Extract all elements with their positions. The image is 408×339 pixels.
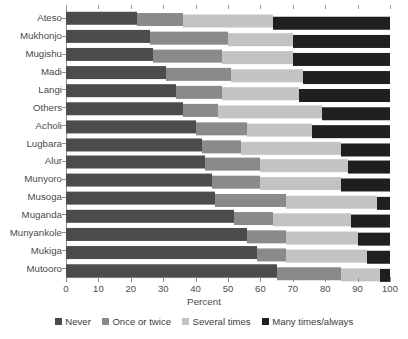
bar-segment-never (66, 246, 257, 259)
bar-segment-several-times (241, 141, 341, 154)
x-axis-tick (228, 278, 229, 282)
legend-label: Several times (193, 316, 251, 327)
x-axis-tick-label: 60 (245, 283, 275, 294)
clipped-chart-title (100, 0, 320, 1)
y-axis-label-mutooro: Mutooro (26, 263, 62, 274)
bar-row (66, 119, 390, 132)
legend-swatch-icon (102, 318, 109, 325)
y-axis-label-lugbara: Lugbara (26, 138, 62, 149)
bar-segment-never (66, 30, 150, 43)
bar-segment-once-or-twice (153, 50, 221, 63)
y-axis-label-muganda: Muganda (22, 209, 62, 220)
legend-item[interactable]: Once or twice (102, 316, 171, 327)
bar-segment-several-times (247, 123, 312, 136)
x-axis-tick-top (325, 5, 326, 9)
x-axis-tick-top (228, 5, 229, 9)
bar-segment-several-times (273, 213, 351, 226)
legend-label: Many times/always (272, 316, 353, 327)
bar-row (66, 262, 390, 275)
chart-legend: NeverOnce or twiceSeveral timesMany time… (0, 316, 408, 327)
bar-segment-several-times (231, 69, 302, 82)
bar-segment-several-times (286, 196, 377, 209)
bar-segment-several-times (222, 87, 300, 100)
bar-segment-once-or-twice (166, 68, 231, 81)
bar-row (66, 226, 390, 239)
bar-segment-once-or-twice (202, 140, 241, 153)
y-axis-tick (62, 161, 66, 162)
legend-swatch-icon (55, 318, 62, 325)
bar-segment-many-times-always (273, 17, 390, 30)
x-axis-tick-top (390, 5, 391, 9)
x-axis-tick-top (196, 5, 197, 9)
legend-item[interactable]: Many times/always (262, 316, 354, 327)
bar-segment-never (66, 174, 212, 187)
bar-segment-once-or-twice (247, 230, 286, 243)
bar-row (66, 244, 390, 257)
x-axis-tick (131, 278, 132, 282)
y-axis-label-ateso: Ateso (37, 12, 62, 23)
bar-segment-once-or-twice (183, 104, 219, 117)
bar-row (66, 154, 390, 167)
x-axis-tick-top (260, 5, 261, 9)
bar-segment-several-times (183, 15, 274, 28)
bar-segment-never (66, 12, 137, 25)
legend-item[interactable]: Several times (182, 316, 251, 327)
x-axis-title: Percent (0, 296, 408, 307)
bar-segment-several-times (286, 231, 357, 244)
x-axis-tick-label: 90 (343, 283, 373, 294)
bar-row (66, 190, 390, 203)
bar-segment-once-or-twice (212, 176, 261, 189)
y-axis-label-madi: Madi (41, 66, 62, 77)
x-axis-tick-top (98, 5, 99, 9)
bar-segment-never (66, 120, 196, 133)
bar-segment-once-or-twice (215, 194, 286, 207)
legend-label: Never (65, 316, 91, 327)
bar-segment-many-times-always (380, 268, 390, 281)
y-axis-tick (62, 36, 66, 37)
y-axis-tick (62, 250, 66, 251)
legend-swatch-icon (182, 318, 189, 325)
y-axis-tick (62, 232, 66, 233)
bar-row (66, 137, 390, 150)
bar-row (66, 83, 390, 96)
y-axis-label-mukhonjo: Mukhonjo (20, 30, 62, 41)
x-axis-tick-top (293, 5, 294, 9)
y-axis-tick (62, 268, 66, 269)
bar-row (66, 172, 390, 185)
x-axis-tick-label: 80 (310, 283, 340, 294)
bar-segment-once-or-twice (196, 122, 248, 135)
y-axis-tick (62, 72, 66, 73)
bar-segment-never (66, 84, 176, 97)
bar-segment-several-times (218, 105, 322, 118)
y-axis-label-munyoro: Munyoro (24, 173, 62, 184)
stacked-bar-chart: AtesoMukhonjoMugishuMadiLangiOthersAchol… (0, 0, 408, 339)
legend-swatch-icon (262, 318, 269, 325)
x-axis-tick-label: 70 (278, 283, 308, 294)
bar-segment-several-times (228, 33, 293, 46)
bar-segment-never (66, 156, 205, 169)
y-axis-tick (62, 54, 66, 55)
x-axis-tick-top (358, 5, 359, 9)
x-axis-tick-top (131, 5, 132, 9)
bar-segment-once-or-twice (150, 32, 228, 45)
x-axis-tick-label: 30 (148, 283, 178, 294)
bar-segment-several-times (222, 51, 293, 64)
bar-segment-never (66, 66, 166, 79)
y-axis-label-musoga: Musoga (28, 191, 62, 202)
bar-segment-several-times (260, 159, 347, 172)
bar-row (66, 65, 390, 78)
y-axis-tick (62, 197, 66, 198)
bar-segment-once-or-twice (205, 158, 260, 171)
x-axis-tick (66, 278, 67, 282)
x-axis-tick-top (66, 5, 67, 9)
y-axis-label-alur: Alur (45, 155, 62, 166)
y-axis-tick (62, 214, 66, 215)
x-axis-tick-label: 0 (51, 283, 81, 294)
bar-row (66, 101, 390, 114)
legend-item[interactable]: Never (55, 316, 91, 327)
bar-segment-once-or-twice (176, 86, 221, 99)
x-axis-tick (358, 278, 359, 282)
bar-row (66, 11, 390, 24)
y-axis-tick (62, 107, 66, 108)
y-axis-label-munyankole: Munyankole (10, 227, 62, 238)
